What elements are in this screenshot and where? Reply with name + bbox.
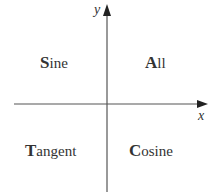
axes-graphic xyxy=(0,0,216,194)
quadrant-label-tangent: Tangent xyxy=(25,141,76,161)
quadrant-rest: ll xyxy=(157,55,165,71)
y-axis-label: y xyxy=(94,2,100,18)
x-axis-label: x xyxy=(198,108,204,124)
quadrant-label-sine: Sine xyxy=(40,53,68,73)
y-axis-arrow-icon xyxy=(103,4,111,16)
quadrant-rest: ine xyxy=(49,55,67,71)
quadrant-label-cosine: Cosine xyxy=(129,141,173,161)
quadrant-label-all: All xyxy=(145,53,166,73)
quadrant-initial: C xyxy=(129,141,141,160)
quadrant-rest: osine xyxy=(141,143,173,159)
quadrant-rest: angent xyxy=(36,143,76,159)
x-axis-arrow-icon xyxy=(197,100,208,108)
quadrant-initial: T xyxy=(25,141,36,160)
quadrant-initial: A xyxy=(145,53,157,72)
